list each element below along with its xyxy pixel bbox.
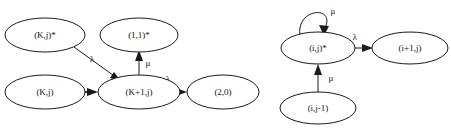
edge-k1j-to-11star: μ: [135, 50, 151, 75]
figure-canvas: λ λ μ λ: [0, 0, 451, 130]
state-transition-diagram-figure: λ λ μ λ: [0, 0, 451, 130]
edge-label-mu-k1j-11star: μ: [146, 58, 151, 68]
node-label-kj: (K,j): [36, 87, 53, 97]
right-state-transition-diagram: μ λ μ (i,j)* (i+1,j): [280, 6, 448, 124]
left-state-transition-diagram: λ λ μ λ: [5, 18, 259, 109]
edge-kjstar-to-k1j: λ: [74, 47, 121, 81]
node-label-11-star: (1,1)*: [128, 30, 150, 40]
node-label-ij-star: (i,j)*: [309, 43, 327, 53]
node-ij-star[interactable]: (i,j)*: [281, 32, 355, 64]
arrowhead-ijstar-i1j: [362, 44, 373, 52]
node-label-ij-1: (i,j-1): [308, 103, 329, 113]
node-11-star[interactable]: (1,1)*: [100, 18, 178, 52]
edge-line-kjstar-k1j: [74, 47, 117, 78]
arrowhead-ij1-ijstar: [314, 64, 322, 75]
arrowhead-kj-k1j: [87, 88, 98, 96]
edge-ijstar-to-i1j: λ: [353, 32, 373, 52]
node-label-i1j: (i+1,j): [399, 43, 422, 53]
node-label-k1j: (K+1,j): [126, 87, 153, 97]
node-label-kj-star: (K,j)*: [34, 30, 56, 40]
edge-label-mu-ij1-ijstar: μ: [329, 73, 334, 83]
edge-ij1-to-ijstar: μ: [314, 64, 334, 92]
edge-label-lambda-ijstar-i1j: λ: [353, 32, 358, 42]
node-kj-star[interactable]: (K,j)*: [5, 18, 85, 52]
node-ij-1[interactable]: (i,j-1): [280, 92, 356, 124]
edge-label-mu-self-loop: μ: [331, 6, 336, 16]
node-kj[interactable]: (K,j): [5, 75, 85, 109]
node-i1j[interactable]: (i+1,j): [372, 32, 448, 64]
edge-label-lambda-kjstar-k1j: λ: [90, 54, 95, 64]
node-k1j[interactable]: (K+1,j): [98, 75, 180, 109]
node-20[interactable]: (2,0): [187, 75, 259, 109]
node-label-20: (2,0): [214, 87, 231, 97]
